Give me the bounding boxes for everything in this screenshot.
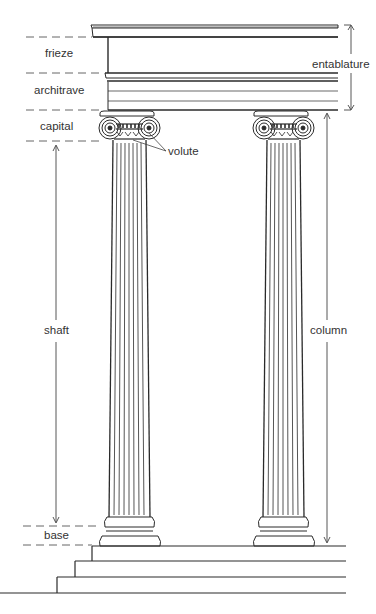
label-volute: volute	[168, 145, 199, 157]
label-column: column	[310, 324, 347, 336]
ionic-order-diagram: frieze architrave capital volute shaft b…	[0, 0, 376, 614]
label-frieze: frieze	[45, 47, 73, 59]
column-right-drawing	[253, 111, 315, 546]
column-left-drawing	[99, 111, 161, 546]
label-architrave: architrave	[34, 84, 85, 96]
label-capital: capital	[40, 120, 73, 132]
guide-lines	[23, 37, 104, 545]
label-entablature: entablature	[312, 58, 370, 70]
entablature-drawing	[91, 25, 338, 110]
label-shaft: shaft	[44, 324, 69, 336]
label-base: base	[44, 529, 69, 541]
steps-drawing	[0, 546, 346, 593]
